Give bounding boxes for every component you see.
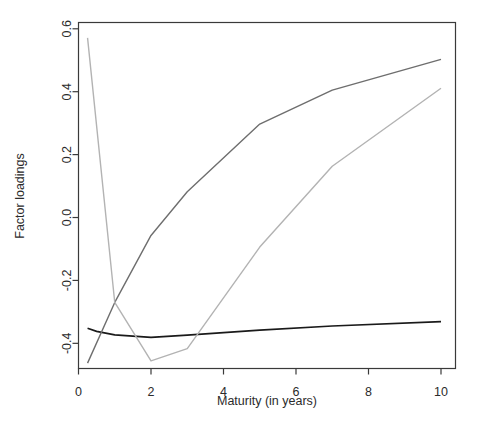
y-tick-label: 0.6 <box>61 20 75 37</box>
y-tick-label: -0.4 <box>61 333 75 355</box>
x-tick-label: 0 <box>75 385 82 399</box>
x-tick-label: 10 <box>434 385 448 399</box>
y-tick-label: 0.4 <box>61 83 75 100</box>
y-tick-label: 0.0 <box>61 209 75 226</box>
y-tick-label: 0.2 <box>61 146 75 163</box>
y-tick-label: -0.2 <box>61 270 75 292</box>
chart-screenshot: -0.4-0.20.00.20.40.6 0246810 Maturity (i… <box>0 0 479 428</box>
x-tick-label: 8 <box>365 385 372 399</box>
x-tick-label: 2 <box>148 385 155 399</box>
x-axis-title: Maturity (in years) <box>217 394 317 408</box>
y-axis-title: Factor loadings <box>13 153 27 238</box>
factor-loadings-line-chart: -0.4-0.20.00.20.40.6 0246810 Maturity (i… <box>0 0 479 428</box>
